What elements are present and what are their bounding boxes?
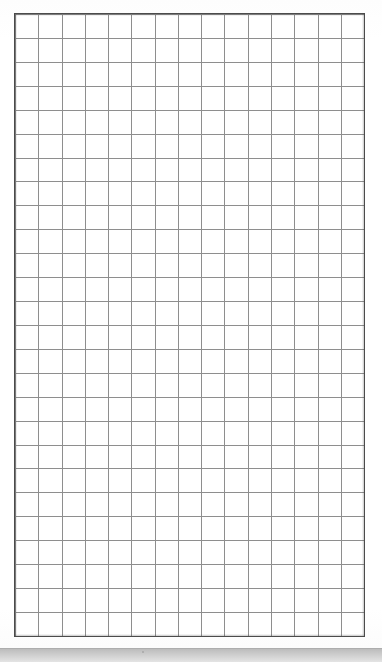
- page-canvas: [0, 0, 382, 662]
- graph-paper-grid: [15, 14, 364, 636]
- scan-bottom-band: [0, 648, 382, 662]
- scan-bottom-hairline: [0, 648, 382, 649]
- scan-dust-speck-icon: [142, 651, 144, 653]
